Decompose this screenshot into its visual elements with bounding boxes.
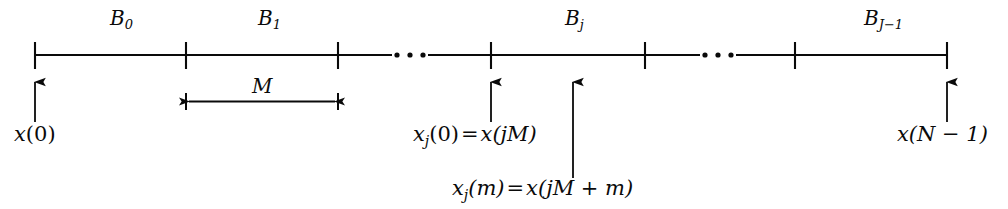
block-label-bj: Bj [565,8,584,28]
label-x-zero-base: x [14,122,26,146]
ellipsis-dot [702,52,707,57]
label-xj-zero-rhs-base: x [481,122,493,146]
label-xj-m-arg: (m) [468,176,504,200]
block-segmentation-figure: B0 B1 Bj BJ−1 M x(0) xj(0)=x(jM) xj(m)=x… [0,0,1008,209]
label-x-zero: x(0) [14,124,56,145]
label-x-n-minus-1-arg: (N − 1) [909,122,988,146]
label-xj-m-rhs-arg: (jM + m) [538,176,633,200]
block-label-b0: B0 [110,8,133,28]
ellipsis-dots-left [394,52,425,57]
block-label-b0-base: B [110,6,125,30]
ellipsis-dot [420,52,425,57]
ellipsis-dot [728,52,733,57]
ellipsis-dots-right [702,52,733,57]
ellipsis-dot [715,52,720,57]
block-label-bj-minus-1-subscript: J−1 [879,17,903,32]
block-label-b0-subscript: 0 [125,17,133,32]
block-label-bj-subscript: j [580,17,584,32]
label-xj-m-equals: = [505,176,527,200]
ellipsis-dot [407,52,412,57]
block-label-b1: B1 [258,8,281,28]
block-label-bj-minus-1-base: B [864,6,879,30]
label-xj-zero-rhs-arg: (jM) [492,122,536,146]
label-xj-zero-subscript: j [425,133,429,149]
m-dimension-label: M [252,76,272,96]
label-x-n-minus-1: x(N − 1) [897,124,988,145]
block-label-bj-base: B [565,6,580,30]
label-x-n-minus-1-base: x [897,122,909,146]
block-label-bj-minus-1: BJ−1 [864,8,903,28]
label-xj-zero-arg: (0) [429,122,459,146]
label-xj-zero-equation: xj(0)=x(jM) [413,124,537,145]
label-x-zero-arg: (0) [26,122,56,146]
block-label-b1-base: B [258,6,273,30]
label-xj-m-rhs-base: x [526,176,538,200]
label-xj-m-base: x [452,176,464,200]
label-xj-zero-equals: = [459,122,481,146]
label-xj-m-equation: xj(m)=x(jM + m) [452,178,633,199]
ellipsis-dot [394,52,399,57]
label-xj-m-subscript: j [464,187,468,203]
label-xj-zero-base: x [413,122,425,146]
block-label-b1-subscript: 1 [273,17,281,32]
